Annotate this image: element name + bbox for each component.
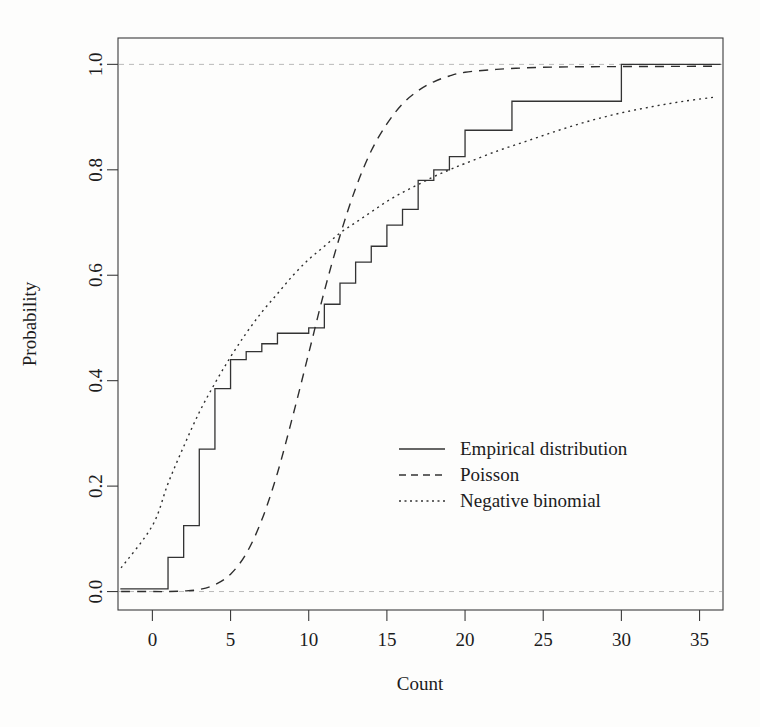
y-tick-label-0.4: 0.4 <box>85 368 106 392</box>
y-tick-label-0.8: 0.8 <box>85 158 106 182</box>
reference-lines <box>119 64 722 591</box>
plot-frame <box>118 38 723 610</box>
x-tick-label-5: 5 <box>226 629 236 650</box>
cdf-comparison-chart: 05101520253035 0.00.20.40.60.81.0 Count … <box>0 0 760 727</box>
series-layer <box>120 64 720 591</box>
y-axis-ticks: 0.00.20.40.60.81.0 <box>85 52 118 603</box>
x-tick-label-30: 30 <box>612 629 631 650</box>
series-poisson <box>121 66 715 591</box>
y-tick-label-0.0: 0.0 <box>85 580 106 604</box>
y-tick-label-0.2: 0.2 <box>85 474 106 498</box>
x-tick-label-35: 35 <box>690 629 709 650</box>
legend-label-empirical-distribution: Empirical distribution <box>460 438 628 459</box>
series-empirical-distribution <box>120 64 720 589</box>
x-axis-title: Count <box>397 673 444 694</box>
x-tick-label-15: 15 <box>377 629 396 650</box>
chart-legend: Empirical distributionPoissonNegative bi… <box>399 438 628 511</box>
x-axis-ticks: 05101520253035 <box>148 610 709 650</box>
x-tick-label-0: 0 <box>148 629 158 650</box>
legend-label-negative-binomial: Negative binomial <box>460 490 601 511</box>
y-tick-label-1.0: 1.0 <box>85 52 106 76</box>
y-tick-label-0.6: 0.6 <box>85 263 106 287</box>
figure-root: 05101520253035 0.00.20.40.60.81.0 Count … <box>0 0 760 727</box>
x-tick-label-25: 25 <box>534 629 553 650</box>
legend-label-poisson: Poisson <box>460 464 520 485</box>
x-tick-label-10: 10 <box>299 629 318 650</box>
x-tick-label-20: 20 <box>456 629 475 650</box>
y-axis-title: Probability <box>19 281 40 366</box>
series-negative-binomial <box>121 97 715 568</box>
